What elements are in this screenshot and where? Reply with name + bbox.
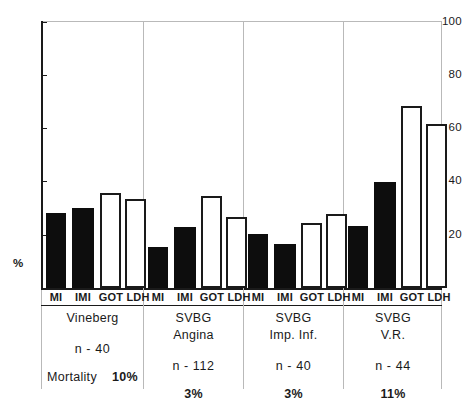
y-tick-40 — [41, 181, 47, 182]
y-tick-100 — [41, 22, 47, 23]
bar-g2-ldh — [326, 214, 347, 288]
group-n-g0: n - 40 — [42, 341, 143, 357]
bar-label-g3-imi: IMI — [371, 290, 399, 304]
group-subtitle-g3: V.R. — [344, 327, 442, 344]
y-tick-80 — [41, 75, 47, 76]
group-mortality-g3: 11% — [344, 386, 442, 402]
group-mortality-g2: 3% — [244, 386, 343, 402]
group-mortality-value-g1: 3% — [184, 387, 203, 401]
bar-g3-mi — [348, 226, 368, 288]
bar-label-g3-mi: MI — [344, 290, 372, 304]
bar-label-g2-mi: MI — [244, 290, 272, 304]
bar-label-g1-imi: IMI — [171, 290, 199, 304]
group-name-g0: Vineberg — [42, 310, 143, 327]
bar-label-g2-got: GOT — [297, 290, 327, 304]
bar-g0-mi — [46, 213, 66, 288]
y-axis-line — [41, 21, 43, 289]
bar-label-g1-mi: MI — [144, 290, 172, 304]
y-tick-60 — [41, 128, 47, 129]
bar-label-g0-got: GOT — [96, 290, 126, 304]
group-mortality-value-g3: 11% — [380, 387, 405, 401]
bar-g1-imi — [174, 227, 196, 288]
bar-label-g1-got: GOT — [197, 290, 227, 304]
group-mortality-value-g2: 3% — [284, 387, 303, 401]
bar-label-g2-imi: IMI — [271, 290, 299, 304]
bar-g0-imi — [72, 208, 94, 288]
group-caption-vineberg: Vineberg n - 40 Mortality 10% — [42, 310, 143, 385]
bar-label-g3-ldh: LDH — [424, 290, 454, 304]
bar-g3-got — [401, 106, 422, 288]
bar-g1-got — [201, 196, 222, 288]
bar-g0-ldh — [125, 199, 146, 288]
y-axis-unit-label: % — [13, 258, 23, 270]
bar-g2-imi — [274, 244, 296, 288]
group-n-g2: n - 40 — [244, 358, 343, 374]
y-tick-label-100: 100 — [428, 16, 462, 28]
bar-g2-mi — [248, 234, 268, 288]
bar-g1-mi — [148, 247, 168, 288]
group-mortality-word-g0: Mortality — [47, 370, 97, 384]
bar-g2-got — [301, 223, 322, 288]
group-caption-svbg-imp-inf: SVBG Imp. Inf. n - 40 3% — [244, 310, 343, 402]
group-n-g1: n - 112 — [144, 358, 243, 374]
y-tick-label-80: 80 — [428, 69, 462, 81]
group-subtitle-g1: Angina — [144, 327, 243, 344]
group-name-g2: SVBG — [244, 310, 343, 327]
group-subtitle-g2: Imp. Inf. — [244, 327, 343, 344]
group-mortality-value-g0: 10% — [112, 370, 138, 384]
bar-chart-figure: 100 80 60 40 20 % MI IMI GOT LDH Vineber… — [0, 0, 462, 406]
bar-g1-ldh — [226, 217, 247, 288]
group-n-g3: n - 44 — [344, 358, 442, 374]
bar-label-g0-mi: MI — [42, 290, 70, 304]
bar-label-g3-got: GOT — [397, 290, 427, 304]
group-name-g1: SVBG — [144, 310, 243, 327]
group-name-g3: SVBG — [344, 310, 442, 327]
bar-label-rule — [41, 305, 442, 306]
group-caption-svbg-vr: SVBG V.R. n - 44 11% — [344, 310, 442, 402]
bar-g3-ldh — [426, 124, 447, 288]
group-mortality-g0: Mortality 10% — [42, 369, 143, 385]
group-mortality-g1: 3% — [144, 386, 243, 402]
bar-label-g0-imi: IMI — [69, 290, 97, 304]
group-caption-svbg-angina: SVBG Angina n - 112 3% — [144, 310, 243, 402]
bar-g0-got — [100, 193, 121, 288]
plot-frame-top — [41, 21, 442, 22]
bar-g3-imi — [374, 182, 396, 288]
